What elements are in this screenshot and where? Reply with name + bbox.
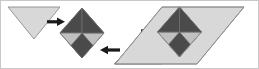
composition-diagram: [1, 1, 259, 69]
composed-parallelogram: [115, 7, 244, 64]
diamond-tile-top-left-dark: [60, 8, 82, 33]
figure-container: [0, 0, 259, 69]
checkerboard-diamond: [60, 8, 104, 58]
diamond-tile-top-right-dark: [82, 8, 104, 33]
arrow-left-second-icon: [100, 46, 120, 55]
